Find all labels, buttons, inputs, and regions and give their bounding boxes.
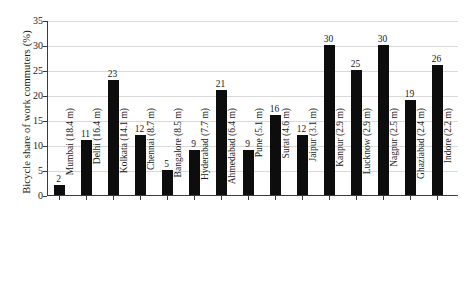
x-axis-label: Pune (5.1 m): [253, 108, 265, 204]
x-tick-mark: [302, 196, 303, 200]
x-axis-label: Ghaziabad (2.4 m): [415, 108, 427, 204]
y-tick-label: 10: [22, 141, 43, 151]
y-tick-label: 20: [22, 91, 43, 101]
y-tick-label: 0: [22, 191, 43, 201]
gridline: [48, 21, 458, 22]
x-tick-mark: [356, 196, 357, 200]
x-axis-label: Kanpur (2.9 m): [334, 108, 346, 204]
x-tick-mark: [221, 196, 222, 200]
bar-value-label: 21: [206, 79, 236, 89]
x-axis-label: Kolkata (14.1 m): [118, 108, 130, 204]
gridline: [48, 46, 458, 47]
y-tick-label: 35: [22, 16, 43, 26]
x-tick-mark: [437, 196, 438, 200]
x-tick-mark: [410, 196, 411, 200]
bar-value-label: 30: [314, 34, 344, 44]
bar-value-label: 19: [395, 89, 425, 99]
x-axis-label: Nagpur (2.5 m): [388, 108, 400, 204]
x-tick-mark: [248, 196, 249, 200]
x-tick-mark: [167, 196, 168, 200]
x-tick-mark: [140, 196, 141, 200]
y-tick-label: 5: [22, 166, 43, 176]
y-tick-mark: [43, 196, 47, 197]
x-tick-mark: [59, 196, 60, 200]
x-tick-mark: [275, 196, 276, 200]
x-axis-label: Delhi (16.4 m): [91, 108, 103, 204]
x-tick-mark: [329, 196, 330, 200]
bar-chart: Bicycle share of work commuters (%) 0510…: [0, 0, 469, 297]
y-tick-label: 30: [22, 41, 43, 51]
x-tick-mark: [383, 196, 384, 200]
x-axis-label: Ahmedabad (6.4 m): [226, 108, 238, 204]
x-tick-mark: [86, 196, 87, 200]
x-tick-mark: [194, 196, 195, 200]
x-axis-label: Bangalore (8.5 m): [172, 108, 184, 204]
x-axis-label: Jaipur (3.1 m): [307, 108, 319, 204]
x-axis-label: Lucknow (2.9 m): [361, 108, 373, 204]
y-tick-label: 25: [22, 66, 43, 76]
x-axis-label: Surat (4.6 m): [280, 108, 292, 204]
x-axis-label: Hyderabad (7.7 m): [199, 108, 211, 204]
bar-value-label: 30: [368, 34, 398, 44]
bar-value-label: 25: [341, 59, 371, 69]
bar-value-label: 26: [422, 54, 452, 64]
x-tick-mark: [113, 196, 114, 200]
x-axis-label: Chennai (8.7 m): [145, 108, 157, 204]
bar-value-label: 23: [98, 69, 128, 79]
x-axis-label: Mumbai (18.4 m): [64, 108, 76, 204]
y-tick-label: 15: [22, 116, 43, 126]
x-axis-label: Indore (2.2 m): [442, 108, 454, 204]
